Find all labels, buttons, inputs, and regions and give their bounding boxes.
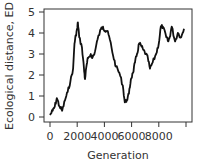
x-tick-label: 2000 (63, 130, 91, 143)
data-line (50, 23, 184, 115)
x-axis: 02000400060008000 (47, 122, 187, 143)
x-tick-label: 8000 (145, 130, 173, 143)
x-tick-label: 4000 (90, 130, 118, 143)
y-tick-label: 5 (28, 6, 35, 19)
x-tick-label: 0 (47, 130, 54, 143)
x-axis-title: Generation (87, 149, 148, 162)
y-tick-label: 0 (28, 111, 35, 124)
y-tick-label: 2 (28, 69, 35, 82)
y-tick-label: 4 (28, 27, 35, 40)
y-tick-label: 3 (28, 48, 35, 61)
y-tick-label: 1 (28, 90, 35, 103)
y-axis: 012345 (28, 6, 44, 124)
line-chart: 012345 02000400060008000 Ecological dist… (0, 0, 206, 163)
y-axis-title: Ecological distance, ED (3, 2, 16, 130)
x-tick-label: 6000 (118, 130, 146, 143)
plot-frame (44, 9, 192, 122)
